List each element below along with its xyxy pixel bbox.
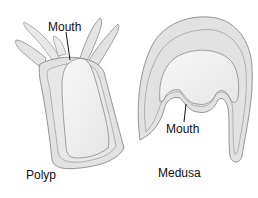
cnidarian-body-forms-diagram: Mouth Mouth Polyp Medusa bbox=[0, 0, 258, 198]
medusa-mouth-label: Mouth bbox=[166, 122, 199, 136]
polyp-caption: Polyp bbox=[26, 168, 56, 182]
polyp-figure bbox=[16, 18, 124, 169]
medusa-mouth-pointer bbox=[184, 104, 186, 122]
polyp-mouth-pointer bbox=[66, 32, 70, 60]
polyp-mouth-label: Mouth bbox=[48, 20, 81, 34]
medusa-caption: Medusa bbox=[158, 166, 201, 180]
medusa-figure bbox=[138, 17, 252, 162]
